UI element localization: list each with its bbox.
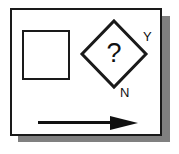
- shadow-bevel-bottom-left: [10, 136, 18, 144]
- branch-label-yes: Y: [143, 30, 152, 43]
- process-square-shape: [22, 30, 70, 80]
- diagram-canvas: ? Y N: [0, 0, 179, 154]
- branch-label-no: N: [120, 86, 129, 99]
- decision-question-mark: ?: [79, 18, 149, 90]
- flow-arrow-right-icon: [38, 114, 140, 132]
- shadow-bevel-top-right: [162, 8, 171, 16]
